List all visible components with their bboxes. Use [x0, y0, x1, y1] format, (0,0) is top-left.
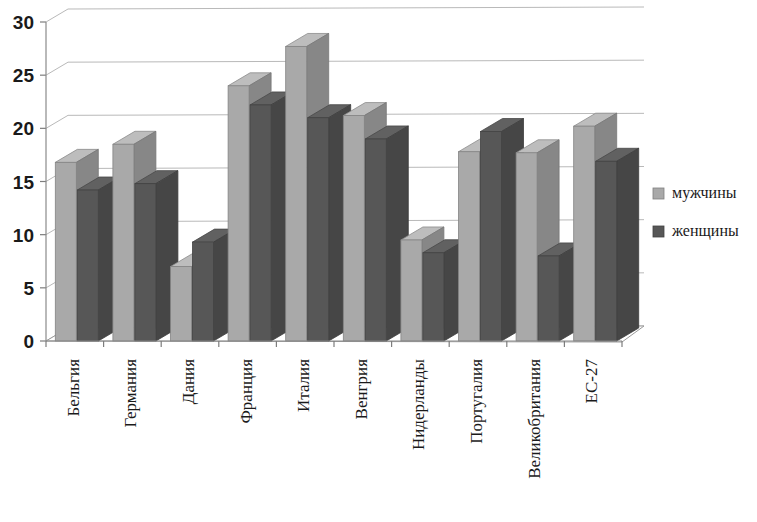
x-tick-label: Италия	[294, 359, 313, 412]
x-tick-label: Португалия	[467, 359, 486, 444]
legend-label: женщины	[671, 222, 739, 240]
bar-chart: 051015202530 БельгияГерманияДанияФранция…	[0, 0, 757, 522]
x-tick-label: Нидерланды	[409, 358, 428, 450]
legend-swatch	[653, 188, 664, 199]
x-tick-label: Франция	[237, 359, 256, 424]
legend-swatch	[653, 226, 664, 237]
x-tick-label: Великобритания	[525, 359, 544, 479]
x-tick-label: ЕС-27	[582, 359, 601, 404]
legend-label: мужчины	[672, 184, 737, 202]
y-tick-label: 20	[13, 118, 34, 139]
x-tick-label: Бельгия	[64, 359, 83, 417]
y-tick-label: 25	[13, 65, 35, 86]
y-tick-label: 10	[13, 225, 34, 246]
x-tick-label: Дания	[179, 359, 198, 404]
x-tick-label: Венгрия	[352, 359, 371, 420]
chart-canvas: 051015202530 БельгияГерманияДанияФранция…	[0, 0, 757, 522]
y-tick-label: 5	[23, 278, 34, 299]
y-tick-label: 15	[13, 172, 35, 193]
y-tick-label: 30	[13, 12, 34, 33]
bar	[596, 148, 639, 341]
y-tick-label: 0	[23, 331, 34, 352]
x-tick-label: Германия	[121, 359, 140, 428]
